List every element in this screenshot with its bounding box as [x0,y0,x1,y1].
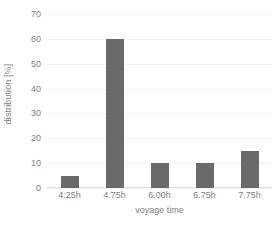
gridline [47,188,272,189]
y-tick-label: 30 [31,108,41,118]
y-tick-label: 50 [31,59,41,69]
x-tick-label: 7.75h [238,190,261,200]
x-tick-label: 4.75h [103,190,126,200]
plot-area [47,14,272,188]
y-tick-label: 20 [31,133,41,143]
bar [196,163,214,188]
x-tick-label: 6.75h [193,190,216,200]
y-axis-title-label: distribution [%] [3,64,13,125]
y-tick-label: 10 [31,158,41,168]
y-axis-tick-labels: 010203040506070 [16,0,44,234]
bars-layer [47,14,272,188]
x-axis-tick-labels: 4.25h4.75h6.00h6.75h7.75h [47,190,272,204]
y-tick-label: 40 [31,84,41,94]
y-axis-title: distribution [%] [0,0,16,188]
bar-chart: distribution [%] 010203040506070 4.25h4.… [0,0,277,234]
bar [151,163,169,188]
y-tick-label: 0 [36,183,41,193]
bar [106,39,124,188]
y-tick-label: 70 [31,9,41,19]
x-tick-label: 4.25h [58,190,81,200]
bar [241,151,259,188]
x-axis-title: voyage time [47,205,272,215]
bar [61,176,79,188]
y-tick-label: 60 [31,34,41,44]
x-tick-label: 6.00h [148,190,171,200]
